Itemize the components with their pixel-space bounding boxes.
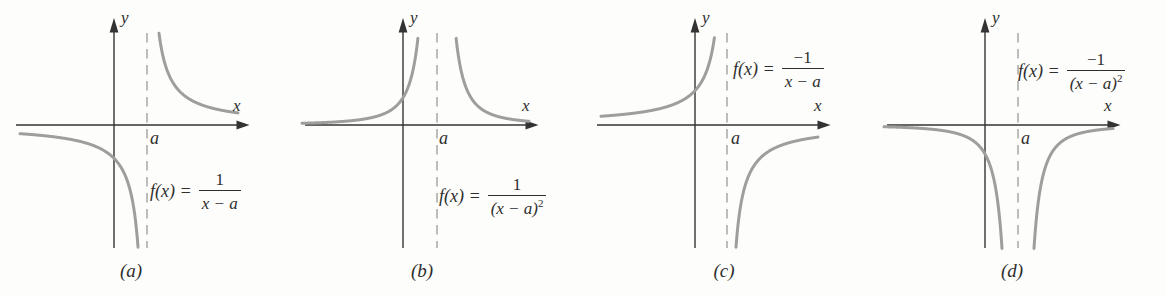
plot-b: [289, 0, 581, 297]
panel-c: yxaf(x) =−1x − a(c): [581, 0, 873, 297]
left-curve-branch: [302, 38, 418, 123]
formula-denominator-base: (x − a): [491, 199, 538, 218]
y-axis-label: y: [121, 9, 129, 26]
right-curve-branch: [736, 137, 818, 247]
formula-denominator-base: (x − a): [1070, 74, 1117, 93]
x-axis-arrowhead-icon: [818, 121, 831, 130]
formula-denominator: x − a: [199, 190, 241, 213]
y-axis-arrowhead-icon: [691, 18, 700, 33]
y-axis-label: y: [702, 9, 710, 26]
formula-fraction: 1(x − a)2: [488, 175, 547, 218]
formula-denominator: (x − a)2: [488, 195, 547, 218]
formula-label: f(x) =−1x − a: [733, 48, 824, 91]
left-curve-branch: [884, 127, 1002, 249]
x-axis-label: x: [814, 97, 822, 114]
right-curve-branch: [159, 33, 238, 113]
panel-caption: (b): [400, 261, 444, 280]
formula-fraction: −1x − a: [782, 48, 824, 91]
x-axis-arrowhead-icon: [237, 121, 250, 130]
formula-label: f(x) =1x − a: [150, 170, 241, 213]
panel-caption: (a): [109, 261, 153, 280]
y-axis-arrowhead-icon: [981, 18, 990, 33]
formula-label: f(x) =1(x − a)2: [439, 175, 546, 218]
formula-denominator: (x − a)2: [1067, 70, 1126, 93]
formula-numerator: −1: [782, 48, 824, 68]
y-axis-label: y: [410, 9, 418, 26]
x-axis-label: x: [522, 97, 530, 114]
formula-lhs: f(x) =: [1018, 61, 1060, 82]
plot-d: [871, 0, 1163, 297]
formula-lhs: f(x) =: [150, 181, 192, 202]
formula-numerator: 1: [199, 170, 241, 190]
asymptote-a-label: a: [1021, 129, 1030, 147]
y-axis-label: y: [992, 9, 1000, 26]
x-axis-label: x: [233, 97, 241, 114]
right-curve-branch: [1034, 129, 1113, 249]
formula-numerator: −1: [1067, 50, 1126, 70]
left-curve-branch: [601, 38, 714, 117]
left-curve-branch: [20, 134, 138, 248]
formula-numerator: 1: [488, 175, 547, 195]
formula-lhs: f(x) =: [439, 186, 481, 207]
panel-a: yxaf(x) =1x − a(a): [0, 0, 292, 297]
formula-denominator-base: x − a: [785, 72, 821, 91]
panel-d: yxaf(x) =−1(x − a)2(d): [871, 0, 1163, 297]
asymptote-a-label: a: [731, 129, 740, 147]
panel-caption: (d): [990, 261, 1034, 280]
formula-denominator-exponent: 2: [1117, 72, 1123, 84]
y-axis-arrowhead-icon: [110, 18, 119, 33]
formula-fraction: 1x − a: [199, 170, 241, 213]
function-graphs-figure: yxaf(x) =1x − a(a)yxaf(x) =1(x − a)2(b)y…: [0, 0, 1166, 297]
plot-c: [581, 0, 873, 297]
formula-label: f(x) =−1(x − a)2: [1018, 50, 1125, 93]
panel-b: yxaf(x) =1(x − a)2(b): [289, 0, 581, 297]
formula-denominator-exponent: 2: [538, 197, 544, 209]
formula-denominator-base: x − a: [202, 194, 238, 213]
formula-lhs: f(x) =: [733, 59, 775, 80]
asymptote-a-label: a: [439, 129, 448, 147]
right-curve-branch: [456, 38, 529, 121]
y-axis-arrowhead-icon: [399, 18, 408, 33]
formula-fraction: −1(x − a)2: [1067, 50, 1126, 93]
x-axis-label: x: [1104, 97, 1112, 114]
formula-denominator: x − a: [782, 68, 824, 91]
asymptote-a-label: a: [150, 129, 159, 147]
plot-a: [0, 0, 292, 297]
panel-caption: (c): [702, 261, 746, 280]
